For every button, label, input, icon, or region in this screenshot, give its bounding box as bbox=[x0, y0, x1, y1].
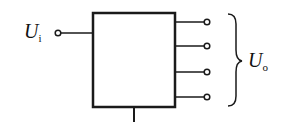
output-terminal-icon-4 bbox=[204, 94, 210, 100]
output-label-sub: o bbox=[262, 61, 268, 73]
block-diagram bbox=[0, 0, 281, 122]
output-label-main: U bbox=[248, 49, 262, 71]
output-terminal-icon-3 bbox=[204, 69, 210, 75]
system-block bbox=[93, 13, 175, 107]
output-label: Uo bbox=[248, 49, 268, 73]
output-terminal-icon-1 bbox=[204, 19, 210, 25]
brace-icon bbox=[228, 14, 242, 106]
input-terminal-icon bbox=[55, 30, 61, 36]
output-terminal-icon-2 bbox=[204, 43, 210, 49]
